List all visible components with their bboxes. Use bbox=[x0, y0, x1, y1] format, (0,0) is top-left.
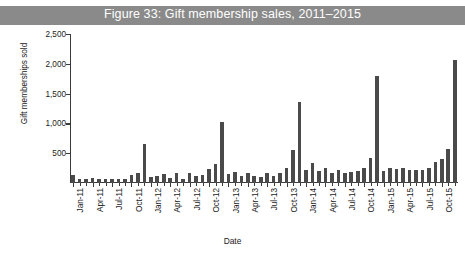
x-axis-tick-mark bbox=[170, 183, 171, 187]
x-axis-tick-mark bbox=[216, 183, 217, 186]
x-axis-tick-mark bbox=[86, 183, 87, 186]
bar bbox=[330, 173, 334, 183]
x-axis-tick-mark bbox=[416, 183, 417, 186]
x-axis-tick-mark bbox=[371, 183, 372, 186]
x-axis-tick-mark bbox=[390, 183, 391, 186]
x-axis-tick-mark bbox=[358, 183, 359, 186]
x-axis-tick-label: Jul-11 bbox=[115, 188, 124, 210]
x-axis-tick-label: Oct-11 bbox=[135, 188, 144, 212]
x-axis-tick-mark bbox=[267, 183, 268, 187]
x-axis-tick-mark bbox=[403, 183, 404, 187]
y-axis-tick-mark bbox=[66, 34, 71, 35]
x-axis-tick-label: Jan-11 bbox=[76, 188, 85, 212]
bar bbox=[220, 122, 224, 183]
x-axis-tick-mark bbox=[338, 183, 339, 186]
x-axis-tick-mark bbox=[422, 183, 423, 187]
bar bbox=[349, 172, 353, 183]
x-axis-tick-mark bbox=[300, 183, 301, 186]
bar bbox=[440, 159, 444, 183]
x-axis-tick-mark bbox=[125, 183, 126, 186]
x-axis-tick-mark bbox=[222, 183, 223, 186]
x-axis-tick-label: Jul-13 bbox=[270, 188, 279, 210]
x-axis-tick-label: Apr-13 bbox=[251, 188, 260, 213]
y-axis-tick-labels: 5001,0001,5002,0002,500 bbox=[26, 25, 66, 183]
x-axis-tick-mark bbox=[410, 183, 411, 186]
x-axis-tick-mark bbox=[228, 183, 229, 187]
x-axis-tick-mark bbox=[287, 183, 288, 187]
bar bbox=[343, 173, 347, 183]
x-axis-tick-label: Oct-13 bbox=[290, 188, 299, 213]
x-axis-tick-mark bbox=[442, 183, 443, 187]
bar bbox=[207, 169, 211, 183]
x-axis-tick-mark bbox=[397, 183, 398, 186]
x-axis-tick-label: Jul-12 bbox=[193, 188, 202, 210]
figure-container: Figure 33: Gift membership sales, 2011–2… bbox=[0, 0, 465, 258]
x-axis-tick-mark bbox=[345, 183, 346, 187]
bar bbox=[395, 169, 399, 183]
bar bbox=[298, 102, 302, 183]
x-axis-tick-mark bbox=[106, 183, 107, 186]
x-axis-tick-mark bbox=[144, 183, 145, 186]
x-axis-tick-label: Apr-11 bbox=[96, 188, 105, 212]
bar bbox=[382, 171, 386, 183]
x-axis-tick-mark bbox=[332, 183, 333, 186]
x-axis-tick-label: Oct-15 bbox=[445, 188, 454, 213]
x-axis-tick-mark bbox=[131, 183, 132, 187]
x-axis-tick-mark bbox=[177, 183, 178, 186]
x-axis-tick-mark bbox=[377, 183, 378, 186]
x-axis-tick-mark bbox=[280, 183, 281, 186]
x-axis-tick-mark bbox=[455, 183, 456, 186]
x-axis-tick-mark bbox=[435, 183, 436, 186]
bar bbox=[214, 164, 218, 183]
x-axis-tick-mark bbox=[313, 183, 314, 186]
x-axis-tick-mark bbox=[261, 183, 262, 186]
bar bbox=[136, 173, 140, 183]
x-axis-tick-mark bbox=[196, 183, 197, 186]
x-axis-tick-label: Jan-15 bbox=[387, 188, 396, 213]
bar bbox=[285, 168, 289, 183]
x-axis-tick-mark bbox=[190, 183, 191, 187]
x-axis-tick-mark bbox=[384, 183, 385, 187]
x-axis-tick-mark bbox=[351, 183, 352, 186]
x-axis-tick-mark bbox=[254, 183, 255, 186]
x-axis-tick-mark bbox=[119, 183, 120, 186]
x-axis-tick-mark bbox=[274, 183, 275, 186]
bar bbox=[304, 170, 308, 183]
x-axis-tick-mark bbox=[209, 183, 210, 187]
bar bbox=[71, 175, 75, 183]
x-axis-tick-mark bbox=[248, 183, 249, 187]
x-axis-tick-label: Apr-12 bbox=[173, 188, 182, 213]
bar bbox=[414, 170, 418, 183]
bar bbox=[356, 171, 360, 183]
x-axis-tick-mark bbox=[151, 183, 152, 187]
x-axis-tick-mark bbox=[235, 183, 236, 186]
x-axis-tick-mark bbox=[429, 183, 430, 186]
y-axis-tick-label: 2,500 bbox=[46, 30, 67, 39]
x-axis-tick-label: Jan-13 bbox=[232, 188, 241, 213]
x-axis-title: Date bbox=[0, 236, 465, 246]
bar bbox=[427, 168, 431, 183]
x-axis-tick-label: Jul-15 bbox=[426, 188, 435, 210]
bar bbox=[317, 171, 321, 183]
bar bbox=[453, 60, 457, 183]
y-axis-tick-label: 2,000 bbox=[46, 59, 67, 68]
bar bbox=[291, 150, 295, 183]
x-axis-tick-mark bbox=[241, 183, 242, 186]
bar bbox=[362, 168, 366, 183]
x-axis-tick-mark bbox=[157, 183, 158, 186]
bar bbox=[311, 163, 315, 183]
bar bbox=[265, 173, 269, 183]
bar-series bbox=[70, 34, 458, 183]
bar bbox=[227, 174, 231, 183]
bar bbox=[130, 175, 134, 183]
bar bbox=[278, 173, 282, 183]
bar bbox=[246, 173, 250, 183]
x-axis-tick-mark bbox=[293, 183, 294, 186]
bar bbox=[375, 76, 379, 183]
y-axis-tick-label: 500 bbox=[52, 149, 66, 158]
x-axis-tick-mark bbox=[325, 183, 326, 187]
x-axis-tick-mark bbox=[306, 183, 307, 187]
bar bbox=[162, 174, 166, 183]
x-axis-tick-mark bbox=[80, 183, 81, 186]
bar bbox=[188, 173, 192, 183]
